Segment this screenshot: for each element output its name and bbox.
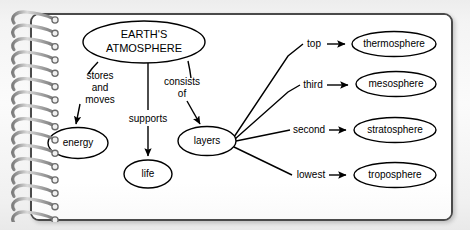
- screenshot-root: stores and moves supports consists of to…: [0, 0, 470, 230]
- notebook-page: [30, 13, 453, 221]
- notebook-page-surface: [32, 15, 451, 219]
